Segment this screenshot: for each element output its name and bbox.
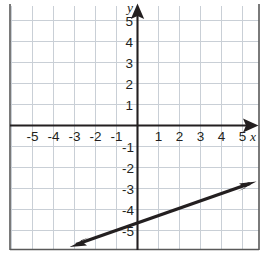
y-tick-label: -1 xyxy=(122,140,134,155)
x-tick-label: 3 xyxy=(197,129,205,144)
x-axis-name: x xyxy=(249,129,256,144)
x-tick-label: 1 xyxy=(155,129,163,144)
y-tick-label: -3 xyxy=(122,182,134,197)
x-tick-label: -5 xyxy=(26,129,38,144)
y-tick-label: 3 xyxy=(125,56,133,71)
figure-container: H xyxy=(0,0,266,261)
x-tick-label: 2 xyxy=(176,129,184,144)
y-tick-label: 4 xyxy=(125,35,133,50)
y-tick-label: -2 xyxy=(122,161,134,176)
graph-background xyxy=(0,0,266,261)
x-tick-label: -2 xyxy=(89,129,101,144)
y-tick-label: 5 xyxy=(125,14,133,29)
x-tick-label: 5 xyxy=(239,129,247,144)
y-tick-label: -4 xyxy=(122,203,134,218)
y-axis-tick-labels-positive: 1 2 3 4 5 xyxy=(125,14,133,113)
y-tick-label: 2 xyxy=(125,77,133,92)
x-tick-label: -4 xyxy=(47,129,59,144)
coordinate-plane-graph: -5 -4 -3 -2 -1 1 2 3 4 5 x 1 2 3 4 5 -1 … xyxy=(0,0,266,261)
y-tick-label: 1 xyxy=(125,98,133,113)
x-tick-label: 4 xyxy=(218,129,226,144)
y-axis-name: y xyxy=(125,0,133,15)
x-tick-label: -1 xyxy=(110,129,122,144)
x-tick-label: -3 xyxy=(68,129,80,144)
